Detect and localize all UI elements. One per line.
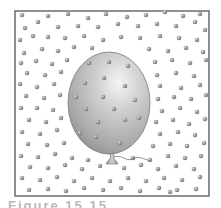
gas-molecule — [70, 156, 75, 161]
gas-molecule — [179, 86, 184, 91]
gas-molecule — [175, 188, 180, 193]
gas-molecule-inside — [94, 135, 99, 140]
gas-molecule — [80, 167, 85, 172]
gas-molecule — [138, 189, 143, 194]
gas-molecule — [56, 49, 61, 54]
gas-molecule — [101, 188, 106, 193]
gas-molecule — [59, 116, 64, 121]
gas-molecule — [27, 118, 32, 123]
gas-molecule — [154, 120, 159, 125]
gas-molecule — [188, 61, 193, 66]
gas-molecule — [35, 85, 40, 90]
gas-molecule — [155, 73, 160, 78]
balloon — [68, 52, 150, 164]
figure-caption: Figure 15.15 — [8, 199, 218, 208]
gas-molecule — [192, 74, 197, 79]
gas-molecule — [25, 71, 30, 76]
gas-molecule — [40, 47, 45, 52]
gas-molecule — [198, 12, 203, 17]
gas-molecule — [63, 163, 68, 168]
gas-molecule — [98, 164, 103, 169]
gas-molecule — [157, 186, 162, 191]
gas-molecule — [144, 179, 149, 184]
gas-molecule — [46, 14, 51, 19]
gas-molecule — [53, 152, 58, 157]
gas-molecule — [43, 73, 48, 78]
gas-molecule — [63, 36, 68, 41]
gas-molecule — [193, 20, 198, 25]
gas-molecule-inside — [118, 141, 123, 146]
gas-molecule — [203, 117, 208, 122]
gas-molecule — [20, 13, 25, 18]
gas-molecule — [174, 71, 179, 76]
gas-molecule — [204, 93, 209, 98]
gas-molecule — [38, 132, 43, 137]
gas-molecule — [101, 38, 106, 43]
gas-molecule — [26, 142, 31, 147]
gas-molecule — [82, 186, 87, 191]
gas-molecule — [28, 165, 33, 170]
gas-molecule — [64, 189, 69, 194]
gas-molecule — [185, 144, 190, 149]
gas-molecule — [19, 61, 24, 66]
gas-molecule — [62, 141, 67, 146]
gas-molecule — [20, 176, 25, 181]
gas-molecule — [59, 70, 64, 75]
gas-molecule — [192, 167, 197, 172]
gas-molecule — [36, 20, 41, 25]
gas-molecule — [163, 10, 168, 15]
gas-molecule — [86, 158, 91, 163]
gas-molecule — [176, 130, 181, 135]
gas-molecule — [153, 60, 158, 65]
gas-molecule — [42, 96, 47, 101]
gas-molecule — [82, 34, 87, 39]
gas-molecule — [139, 163, 144, 168]
gas-molecule — [189, 97, 194, 102]
gas-molecule — [144, 13, 149, 18]
gas-molecule — [52, 82, 57, 87]
gas-molecule — [19, 106, 24, 111]
gas-molecule — [187, 122, 192, 127]
gas-molecule — [160, 109, 165, 114]
gas-molecule — [76, 24, 81, 29]
gas-molecule — [119, 186, 124, 191]
gas-molecule — [19, 154, 24, 159]
gas-molecule — [183, 156, 188, 161]
gas-molecule — [119, 35, 124, 40]
gas-molecule — [58, 93, 63, 98]
gas-molecule-inside — [74, 95, 79, 100]
gas-molecule — [55, 175, 60, 180]
gas-molecule — [125, 15, 130, 20]
gas-molecule — [174, 164, 179, 169]
gas-molecule — [178, 106, 183, 111]
gas-molecule-inside — [101, 95, 106, 100]
gas-molecule-inside — [137, 116, 142, 121]
gas-molecule — [168, 142, 173, 147]
gas-molecule-inside — [78, 131, 83, 136]
gas-molecule — [156, 167, 161, 172]
gas-molecule — [158, 84, 163, 89]
gas-molecule — [126, 176, 131, 181]
gas-molecule — [147, 47, 152, 52]
gas-molecule — [122, 166, 127, 171]
gas-molecule — [116, 22, 121, 27]
gas-molecule-inside — [102, 76, 107, 81]
gas-molecule — [195, 110, 200, 115]
balloon-body — [68, 52, 150, 154]
balloon-molecules-diagram — [0, 0, 221, 208]
gas-molecule — [34, 59, 39, 64]
gas-molecule — [181, 14, 186, 19]
gas-molecule — [174, 24, 179, 29]
gas-molecule-inside — [123, 118, 128, 123]
gas-molecule — [170, 58, 175, 63]
gas-molecule — [195, 38, 200, 43]
gas-molecule — [35, 106, 40, 111]
balloon-knot — [106, 153, 118, 164]
gas-molecule-inside — [126, 64, 131, 69]
gas-molecule — [55, 128, 60, 133]
gas-molecule — [184, 46, 189, 51]
gas-molecule — [201, 50, 206, 55]
gas-molecule — [18, 38, 23, 43]
gas-molecule — [158, 34, 163, 39]
gas-molecule — [86, 16, 91, 21]
